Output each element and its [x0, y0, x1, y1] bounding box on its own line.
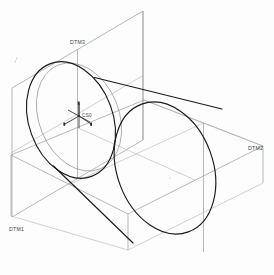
right-ellipse	[97, 88, 234, 249]
tick-glyph	[15, 57, 17, 63]
dtm1-outline	[11, 100, 263, 214]
silhouette-bottom	[54, 166, 134, 243]
left-ellipse	[11, 49, 131, 190]
dtm2-diag-right	[128, 183, 263, 250]
datum-plane-dtm2[interactable]	[11, 11, 263, 252]
cylinder-left-face[interactable]	[11, 49, 131, 190]
label-dtm3: DTM3	[70, 39, 85, 45]
csys-tick-y	[90, 123, 92, 126]
csys-origin-point	[78, 115, 80, 117]
dtm1-center-cross-b	[70, 123, 204, 185]
datum-plane-dtm1[interactable]	[11, 100, 263, 214]
csys-tick-x	[63, 123, 65, 126]
silhouette-top	[95, 78, 223, 110]
model-canvas[interactable]: DTM3 DTM2 DTM1 CS0	[0, 0, 274, 275]
label-dtm1: DTM1	[9, 226, 24, 232]
cad-viewport[interactable]: DTM3 DTM2 DTM1 CS0	[0, 0, 274, 275]
stray-tick-mark	[15, 57, 17, 63]
label-dtm2: DTM2	[248, 145, 263, 151]
label-csys-cs0: CS0	[82, 113, 92, 118]
dtm1-center-point	[169, 177, 170, 178]
cylinder-right-face[interactable]	[97, 88, 234, 249]
